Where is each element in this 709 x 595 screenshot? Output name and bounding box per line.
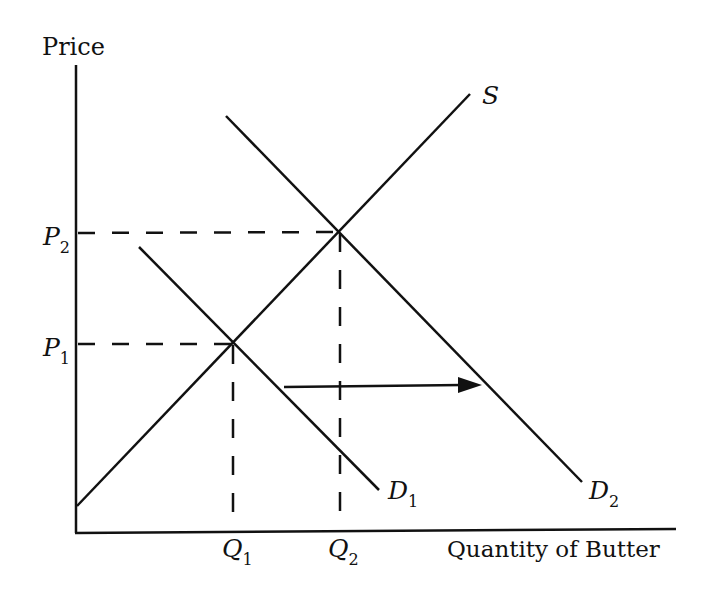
d2-label: D2 — [588, 476, 619, 511]
supply-demand-diagram: Price Quantity of Butter P2 P1 Q1 Q2 S D… — [0, 0, 709, 595]
p2-label: P2 — [42, 222, 70, 257]
q2-label: Q2 — [328, 534, 359, 569]
shift-arrow — [284, 377, 482, 393]
x-axis — [75, 529, 676, 533]
y-axis-label: Price — [42, 33, 105, 61]
p1-label: P1 — [42, 333, 70, 368]
supply-curve — [77, 94, 470, 506]
x-axis-label: Quantity of Butter — [447, 536, 660, 562]
d1-label: D1 — [387, 476, 418, 511]
q1-label: Q1 — [222, 534, 253, 569]
demand-curve-2 — [226, 116, 582, 482]
supply-label: S — [482, 81, 499, 110]
demand-curve-1 — [139, 247, 379, 490]
p2-guide — [78, 232, 339, 233]
